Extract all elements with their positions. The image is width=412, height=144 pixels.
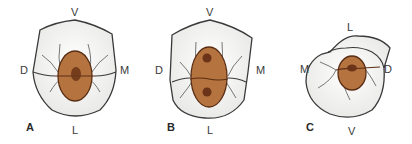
panel-a-tooth [33,20,116,116]
panel-a-left-label: D [20,64,28,76]
panel-c-left-label: M [300,63,309,75]
panel-a-top-label: V [71,6,78,18]
panel-b-top-label: V [206,6,213,18]
panel-a-bottom-label: L [72,124,78,136]
panel-b-right-label: M [256,64,265,76]
carious-lesion-mesial [203,54,212,63]
cavity-preparation [338,56,366,90]
panel-a-label: A [26,121,34,133]
carious-lesion-distal [203,88,212,97]
panel-c-right-label: D [384,63,392,75]
carious-lesion [347,65,357,72]
panel-b-bottom-label: L [207,124,213,136]
panel-c-bottom-label: V [348,125,355,137]
panel-b-tooth [170,20,252,118]
panel-b-label: B [167,121,175,133]
panel-a-right-label: M [120,64,129,76]
panel-c-tooth [306,36,390,117]
carious-lesion [71,67,81,81]
panel-b-left-label: D [155,64,163,76]
panel-c-top-label: L [347,21,353,33]
panel-c-label: C [306,121,314,133]
